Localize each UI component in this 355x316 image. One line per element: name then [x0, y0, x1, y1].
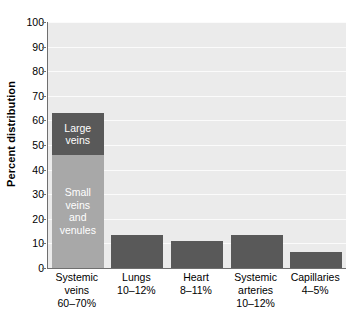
- y-tick-label: 60: [18, 115, 44, 126]
- y-tick-label: 100: [18, 17, 44, 28]
- x-tick-label: Capillaries 4–5%: [285, 271, 345, 297]
- y-tick-label: 50: [18, 140, 44, 151]
- y-tick-label: 10: [18, 238, 44, 249]
- y-tick-mark: [42, 120, 46, 121]
- y-tick-mark: [42, 268, 46, 269]
- bar[interactable]: [290, 252, 342, 268]
- bar-series: Large veinsSmall veins and venules: [48, 22, 346, 268]
- y-tick-mark: [42, 219, 46, 220]
- bar-segment-label: Large veins: [52, 121, 104, 146]
- y-tick-label: 0: [18, 263, 44, 274]
- y-tick-label: 70: [18, 91, 44, 102]
- y-tick-mark: [42, 96, 46, 97]
- x-tick-label: Lungs 10–12%: [107, 271, 167, 297]
- bar[interactable]: Large veinsSmall veins and venules: [52, 113, 104, 268]
- y-tick-mark: [42, 71, 46, 72]
- y-axis-ticks: 0102030405060708090100: [12, 0, 44, 316]
- y-tick-label: 90: [18, 41, 44, 52]
- y-tick-mark: [42, 145, 46, 146]
- bar-segment[interactable]: [290, 252, 342, 268]
- bar-segment[interactable]: [231, 235, 283, 268]
- y-tick-label: 30: [18, 189, 44, 200]
- bar-segment[interactable]: [171, 241, 223, 268]
- bar-segment[interactable]: Large veins: [52, 113, 104, 155]
- x-tick-label: Heart 8–11%: [166, 271, 226, 297]
- y-tick-label: 20: [18, 214, 44, 225]
- y-tick-mark: [42, 170, 46, 171]
- bar[interactable]: [171, 241, 223, 268]
- bar[interactable]: [231, 235, 283, 268]
- x-tick-label: Systemic veins 60–70%: [47, 271, 107, 309]
- y-tick-mark: [42, 47, 46, 48]
- bar-segment-label: Small veins and venules: [52, 186, 104, 236]
- y-tick-mark: [42, 22, 46, 23]
- bar-segment[interactable]: Small veins and venules: [52, 155, 104, 268]
- y-tick-label: 40: [18, 164, 44, 175]
- bar-chart: Percent distribution 0102030405060708090…: [0, 0, 355, 316]
- x-axis-labels: Systemic veins 60–70%Lungs 10–12%Heart 8…: [47, 271, 345, 316]
- y-tick-label: 80: [18, 66, 44, 77]
- bar-segment[interactable]: [111, 235, 163, 268]
- x-tick-label: Systemic arteries 10–12%: [226, 271, 286, 309]
- bar[interactable]: [111, 235, 163, 268]
- plot-area: Large veinsSmall veins and venules: [47, 22, 346, 269]
- y-tick-mark: [42, 243, 46, 244]
- y-tick-mark: [42, 194, 46, 195]
